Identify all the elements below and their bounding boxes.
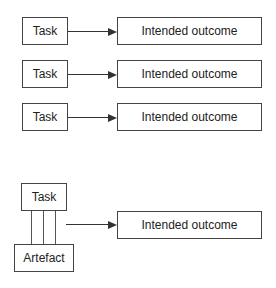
connector-line-2 <box>43 211 44 244</box>
outcome-box-1: Intended outcome <box>117 17 262 45</box>
task-box-2: Task <box>22 60 68 88</box>
outcome-label: Intended outcome <box>141 110 237 124</box>
arrow-line-3 <box>68 117 108 118</box>
artefact-label: Artefact <box>23 251 64 265</box>
arrow-head-icon <box>108 221 117 229</box>
combined-outcome-box: Intended outcome <box>117 211 262 239</box>
arrow-line-2 <box>68 74 108 75</box>
connector-line-1 <box>31 211 32 244</box>
arrow-line-combined <box>66 224 108 225</box>
arrow-line-1 <box>68 31 108 32</box>
outcome-label: Intended outcome <box>141 24 237 38</box>
outcome-box-2: Intended outcome <box>117 60 262 88</box>
arrow-head-icon <box>108 114 117 122</box>
outcome-label: Intended outcome <box>141 67 237 81</box>
task-label: Task <box>32 190 57 204</box>
combined-task-box: Task <box>21 183 67 211</box>
task-box-3: Task <box>22 103 68 131</box>
task-label: Task <box>33 110 58 124</box>
task-box-1: Task <box>22 17 68 45</box>
outcome-box-3: Intended outcome <box>117 103 262 131</box>
artefact-box: Artefact <box>14 244 74 272</box>
arrow-head-icon <box>108 71 117 79</box>
connector-line-3 <box>55 211 56 244</box>
outcome-label: Intended outcome <box>141 218 237 232</box>
task-label: Task <box>33 24 58 38</box>
arrow-head-icon <box>108 28 117 36</box>
task-label: Task <box>33 67 58 81</box>
